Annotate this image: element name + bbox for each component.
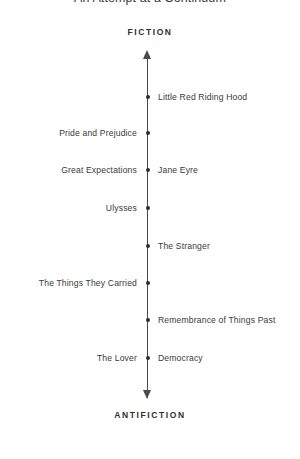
- data-point-label-right: Jane Eyre: [158, 165, 198, 175]
- data-point: [146, 356, 150, 360]
- continuum-axis: [147, 53, 148, 398]
- data-point-label-left: The Things They Carried: [39, 278, 137, 288]
- axis-label-fiction: FICTION: [0, 27, 300, 37]
- data-point-label-left: Pride and Prejudice: [59, 128, 137, 138]
- data-point-label-left: The Lover: [97, 353, 137, 363]
- data-point-label-right: The Stranger: [158, 241, 210, 251]
- data-point: [146, 206, 150, 210]
- axis-label-antifiction: ANTIFICTION: [0, 410, 300, 420]
- arrow-down-icon: [143, 390, 151, 399]
- data-point: [146, 168, 150, 172]
- data-point: [146, 131, 150, 135]
- data-point-label-right: Remembrance of Things Past: [158, 315, 275, 325]
- data-point: [146, 318, 150, 322]
- data-point: [146, 281, 150, 285]
- data-point: [146, 244, 150, 248]
- data-point-label-left: Great Expectations: [61, 165, 137, 175]
- data-point-label-right: Democracy: [158, 353, 203, 363]
- page-title: An Attempt at a Continuum: [0, 0, 300, 5]
- data-point: [146, 95, 150, 99]
- data-point-label-left: Ulysses: [106, 203, 137, 213]
- data-point-label-right: Little Red Riding Hood: [158, 92, 247, 102]
